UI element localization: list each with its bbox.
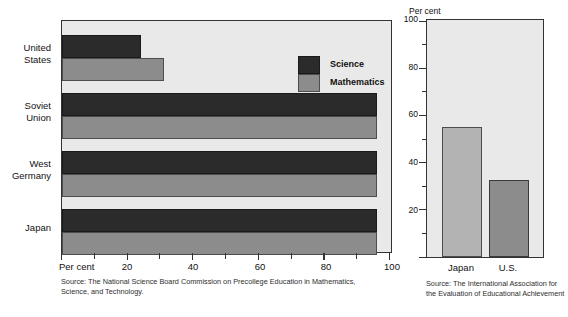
x-axis-tick-70 (291, 253, 292, 259)
x-axis-tick-80 (323, 253, 324, 260)
left-chart-panel: United States Soviet Union West Germany … (0, 0, 404, 317)
x-axis-tick-50 (225, 253, 226, 259)
bar-math-west-germany (62, 174, 377, 197)
bar-science-japan (62, 209, 377, 232)
x-axis-tick-40 (192, 253, 193, 260)
x-axis-tick-label-40: 40 (178, 261, 208, 272)
right-chart-y-axis-labels: 100 80 60 40 20 (404, 19, 418, 258)
y-axis-tick-label-40: 40 (409, 157, 418, 167)
category-label-soviet-union: Soviet Union (25, 100, 51, 123)
x-axis-category-us: U.S. (486, 262, 530, 273)
legend-swatch-science-icon (298, 56, 320, 74)
y-axis-tick-label-100: 100 (404, 14, 418, 24)
legend-label-science: Science (330, 59, 364, 69)
x-axis-tick-20 (127, 253, 128, 260)
bar-science-united-states (62, 35, 141, 58)
bar-science-west-germany (62, 151, 377, 174)
bar-math-soviet-union (62, 116, 377, 139)
y-axis-tick-label-60: 60 (409, 109, 418, 119)
x-axis-tick-label-60: 60 (245, 261, 275, 272)
category-label-west-germany: West Germany (12, 158, 51, 181)
x-axis-tick-10 (94, 253, 95, 259)
x-axis-tick-0 (61, 253, 62, 260)
left-chart-plot-area: Science Mathematics (61, 20, 392, 253)
x-axis-tick-90 (356, 253, 357, 259)
bar-math-japan (62, 232, 377, 255)
x-axis-tick-label-20: 20 (112, 261, 142, 272)
bar-us (489, 180, 529, 257)
category-label-united-states: United States (24, 42, 51, 65)
y-axis-tick-label-80: 80 (409, 62, 418, 72)
left-chart-source-note: Source: The National Science Board Commi… (61, 277, 361, 296)
bar-science-soviet-union (62, 93, 377, 116)
x-axis-tick-30 (159, 253, 160, 259)
right-chart-source-note: Source: The International Association fo… (426, 279, 566, 298)
legend-swatch-mathematics-icon (298, 74, 320, 92)
bar-math-united-states (62, 58, 164, 81)
right-chart-plot-area (426, 19, 544, 258)
x-axis-tick-60 (258, 253, 259, 260)
left-chart-x-axis-labels: 20 40 60 80 100 (0, 261, 404, 275)
right-chart-panel: Per cent 100 80 60 40 20 Japan U.S. Sour… (404, 0, 568, 317)
x-axis-tick-label-100: 100 (377, 261, 407, 272)
category-label-japan: Japan (25, 222, 51, 234)
x-axis-tick-label-80: 80 (311, 261, 341, 272)
legend-label-mathematics: Mathematics (330, 77, 385, 87)
x-axis-category-japan: Japan (439, 262, 483, 273)
bar-japan (442, 127, 482, 257)
left-chart-x-axis-ticks (61, 253, 392, 260)
x-axis-tick-100 (389, 253, 390, 260)
left-chart-category-labels: United States Soviet Union West Germany … (0, 20, 55, 253)
y-axis-tick-label-20: 20 (409, 205, 418, 215)
right-chart-x-axis-labels: Japan U.S. (426, 262, 544, 276)
